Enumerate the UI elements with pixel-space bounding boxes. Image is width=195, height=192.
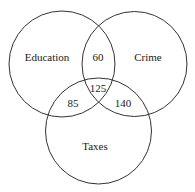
education-label: Education (25, 51, 70, 63)
venn-svg: Education Crime Taxes 60 125 85 140 (0, 0, 195, 192)
crime-circle (82, 12, 187, 117)
region-all-three: 125 (90, 82, 107, 94)
crime-label: Crime (134, 51, 162, 63)
education-circle (9, 11, 115, 117)
taxes-label: Taxes (82, 140, 108, 152)
venn-diagram: Education Crime Taxes 60 125 85 140 (0, 0, 195, 192)
region-crime-taxes: 140 (115, 97, 132, 109)
region-education-taxes: 85 (68, 97, 80, 109)
region-education-crime: 60 (93, 51, 105, 63)
